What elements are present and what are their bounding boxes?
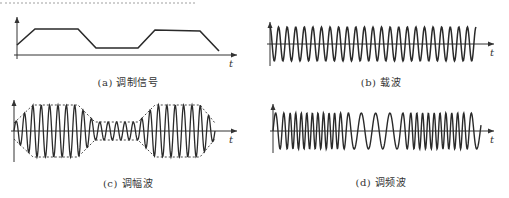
modulation-figure <box>0 0 509 198</box>
t-label-b: t <box>490 47 494 58</box>
t-label-a: t <box>229 58 233 69</box>
caption-c: (c) 调幅波 <box>103 175 153 190</box>
caption-b: (b) 载波 <box>361 74 401 89</box>
x-axis-arrow-icon <box>231 53 237 58</box>
x-axis-arrow-icon <box>488 129 494 134</box>
y-axis-arrow-icon <box>12 100 17 106</box>
modulating-signal <box>17 29 219 51</box>
x-axis-arrow-icon <box>488 42 494 47</box>
y-axis-arrow-icon <box>15 17 20 23</box>
t-label-d: t <box>490 134 494 145</box>
caption-a: (a) 调制信号 <box>98 74 159 89</box>
x-axis-arrow-icon <box>231 129 237 134</box>
y-axis-arrow-icon <box>271 104 276 110</box>
t-label-c: t <box>229 134 233 145</box>
caption-d: (d) 调频波 <box>356 174 407 189</box>
